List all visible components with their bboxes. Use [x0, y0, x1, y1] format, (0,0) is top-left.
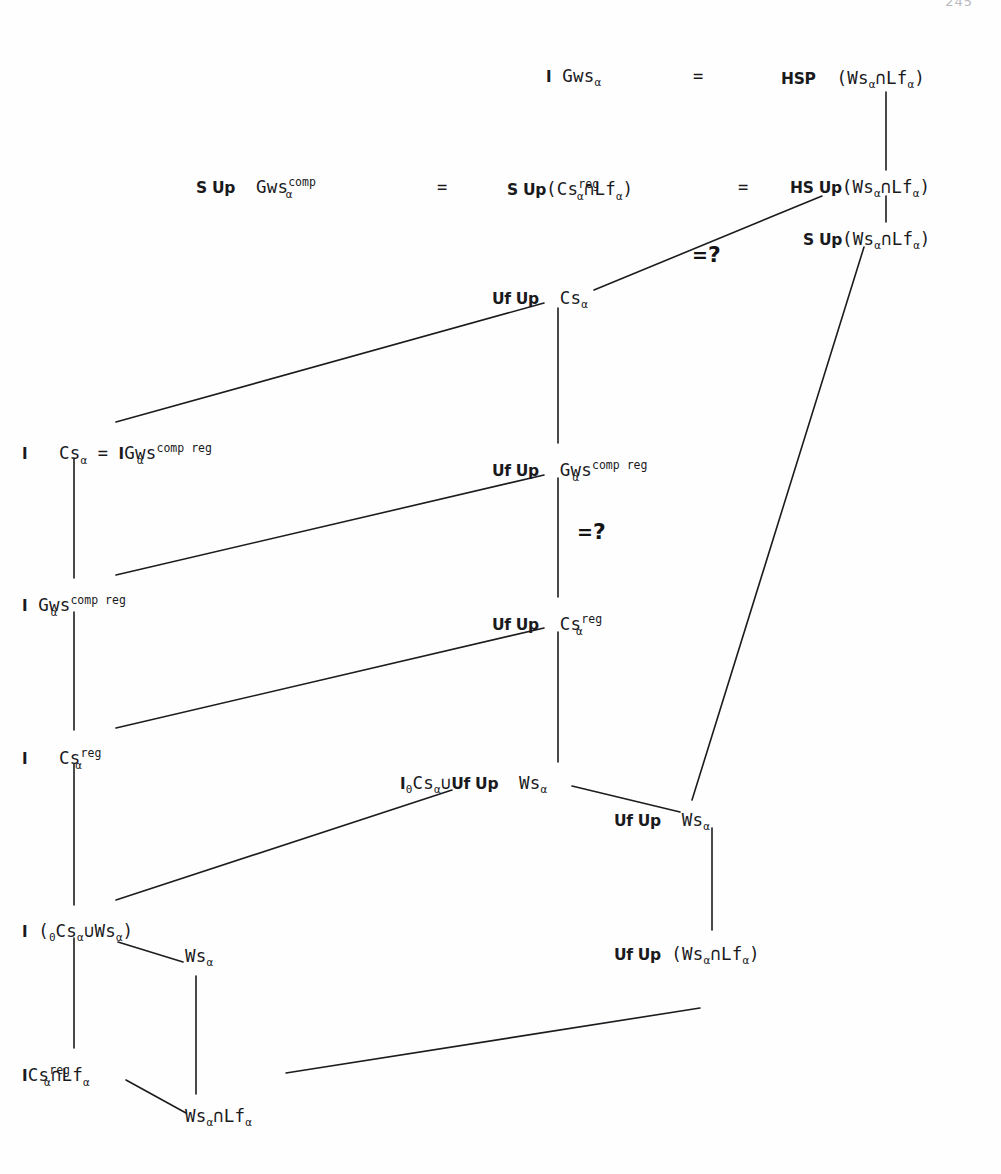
subscript-alpha: α	[51, 606, 58, 619]
class-Cs: Cs	[56, 921, 77, 941]
operator-HSP: HSP	[781, 70, 816, 88]
node-hsup-ws-lf: HS Up(Wsα∩Lfα)	[790, 179, 930, 199]
superscript-reg: reg	[81, 746, 102, 760]
node-i-cs-reg: I Csregα	[22, 748, 82, 771]
paren-close: )	[919, 177, 930, 197]
node-ufup-gws-comp-reg: Uf Up Gwscomp regα	[492, 460, 579, 483]
equals-sign-4: =	[98, 443, 108, 463]
cap-symbol: ∩	[584, 179, 595, 199]
edge-icsreg-to-ufupcsreg	[116, 628, 544, 728]
superscript-comp-reg: comp reg	[70, 593, 125, 607]
edge-icsreglf-to-wslf	[126, 1080, 186, 1113]
class-Cs: Cs	[560, 288, 581, 308]
paren-open: (	[842, 177, 853, 197]
equals-glyph: =	[692, 244, 708, 266]
cap-symbol: ∩	[51, 1065, 62, 1085]
operator-HS-Up: HS Up	[790, 179, 842, 197]
paren-open: (	[38, 921, 49, 941]
subscript-alpha: α	[77, 931, 84, 944]
cap-symbol: ∩	[875, 68, 886, 88]
paren-close: )	[920, 229, 931, 249]
class-Gws: Gws	[562, 66, 594, 86]
paren-close: )	[623, 179, 634, 199]
relation-marker-equals-question-2: =?	[577, 521, 606, 543]
node-sup-cs-reg-lf: S Up(Csregα∩Lfα)	[507, 179, 633, 202]
class-Lf: Lf	[594, 179, 615, 199]
equals-sign-1: =	[693, 68, 703, 85]
subscript-alpha: α	[83, 1076, 90, 1089]
subscript-alpha: α	[581, 298, 588, 311]
operator-Uf-Up: Uf Up	[614, 946, 661, 964]
class-Ws: Ws	[682, 810, 703, 830]
superscript-comp-reg: comp reg	[592, 458, 647, 472]
subscript-zero: 0	[49, 931, 56, 944]
operator-Uf-Up: Uf Up	[492, 290, 539, 308]
node-i-i0cs-union-ws: I (0Csα∪Wsα)	[22, 923, 133, 943]
node-i-gws-comp-reg: I Gwscomp regα	[22, 595, 57, 618]
edge-i0csws-to-ws	[118, 942, 183, 962]
node-i-cs-eq-i-gws-comp-reg: I Csα = IGwscomp regα	[22, 443, 144, 466]
subscript-alpha: α	[44, 1076, 51, 1089]
cup-symbol: ∪	[441, 773, 452, 793]
node-i-cs-reg-cap-lf: ICsregα∩Lfα	[22, 1065, 90, 1088]
equals-sign-3: =	[738, 179, 748, 196]
subscript-alpha: α	[116, 931, 123, 944]
class-Ws: Ws	[852, 177, 873, 197]
edge-i0csws-to-i0cs	[116, 790, 452, 900]
node-sup-ws-lf: S Up(Wsα∩Lfα)	[803, 231, 931, 251]
paren-open: (	[671, 944, 682, 964]
superscript-comp: comp	[288, 175, 316, 189]
class-Ws: Ws	[682, 944, 703, 964]
relation-marker-equals-question-1: =?	[692, 244, 721, 266]
class-Lf: Lf	[721, 944, 742, 964]
subscript-alpha: α	[572, 471, 579, 484]
diagram-page: 245	[0, 0, 1001, 1174]
subscript-alpha: α	[541, 783, 548, 796]
node-ufup-ws: Uf Up Wsα	[614, 812, 710, 832]
subscript-alpha: α	[137, 454, 144, 467]
node-ufup-cs: Uf Up Csα	[492, 290, 588, 310]
edge-igws-to-ufupgws	[116, 475, 544, 575]
class-Ws: Ws	[853, 229, 874, 249]
subscript-alpha: α	[616, 190, 623, 203]
edge-ics-to-ufupcs	[116, 303, 544, 422]
cap-symbol: ∩	[881, 229, 892, 249]
subscript-alpha: α	[75, 759, 82, 772]
edge-sup-to-ufupws	[692, 247, 864, 800]
class-Gws: Gws	[256, 177, 288, 197]
paren-close: )	[123, 921, 134, 941]
cap-symbol: ∩	[881, 177, 892, 197]
operator-S-Up: S Up	[196, 179, 235, 197]
subscript-alpha: α	[874, 187, 881, 200]
subscript-alpha: α	[913, 239, 920, 252]
node-ws: Wsα	[185, 948, 213, 968]
page-number: 245	[945, 0, 973, 9]
subscript-alpha: α	[245, 1116, 252, 1129]
class-Lf: Lf	[224, 1106, 245, 1126]
class-Cs: Cs	[59, 443, 80, 463]
operator-Uf-Up: Uf Up	[492, 616, 539, 634]
cup-symbol: ∪	[84, 921, 95, 941]
subscript-alpha: α	[703, 820, 710, 833]
subscript-alpha: α	[577, 190, 584, 203]
subscript-alpha: α	[594, 76, 601, 89]
class-Lf: Lf	[886, 68, 907, 88]
paren-open: (	[836, 68, 847, 88]
class-Ws: Ws	[519, 773, 540, 793]
equals-sign-2: =	[437, 179, 447, 196]
paren-close: )	[914, 68, 925, 88]
paren-close: )	[749, 944, 760, 964]
subscript-alpha: α	[874, 239, 881, 252]
edge-wslf-to-ufupwslf	[286, 1008, 700, 1073]
question-mark-glyph: ?	[593, 519, 606, 544]
node-i0-cs-union-ufup-ws: I0Csα∪Uf Up Wsα	[400, 775, 547, 795]
class-Ws: Ws	[185, 1106, 206, 1126]
class-Ws: Ws	[185, 946, 206, 966]
superscript-reg: reg	[581, 612, 602, 626]
edge-i0cs-to-ufupws	[572, 786, 680, 812]
class-Ws: Ws	[847, 68, 868, 88]
node-ufup-cs-reg: Uf Up Csregα	[492, 614, 583, 637]
operator-Uf-Up: Uf Up	[451, 775, 498, 793]
cap-symbol: ∩	[710, 944, 721, 964]
question-mark-glyph: ?	[708, 242, 721, 267]
